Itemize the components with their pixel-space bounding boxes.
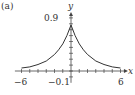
- y-tick-label-bottom: −0.1: [48, 77, 70, 87]
- y-tick-label-top: 0.9: [44, 13, 59, 23]
- chart-panel: (a) y x 0.9 −0.1 −6 6: [0, 0, 135, 95]
- axes: [15, 12, 128, 83]
- x-tick-label-left: −6: [14, 77, 28, 87]
- line-chart: (a) y x 0.9 −0.1 −6 6: [0, 0, 135, 95]
- y-axis-label: y: [67, 1, 74, 11]
- panel-label: (a): [1, 1, 13, 11]
- x-tick-label-right: 6: [118, 77, 124, 87]
- x-axis-label: x: [128, 66, 133, 76]
